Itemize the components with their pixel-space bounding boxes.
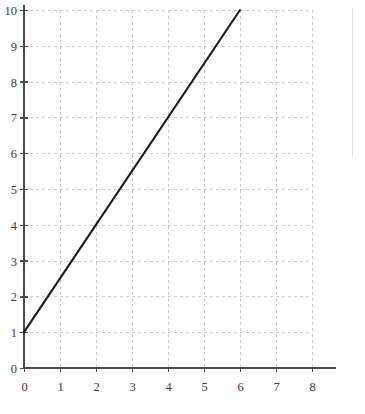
x-tick-label-4: 4 xyxy=(165,380,172,394)
x-tick-label-6: 6 xyxy=(237,380,243,394)
x-tick-label-8: 8 xyxy=(309,380,315,394)
y-tick-label-5: 5 xyxy=(11,183,17,197)
y-tick-label-0: 0 xyxy=(11,362,17,376)
y-tick-label-2: 2 xyxy=(11,290,17,304)
y-tick-label-7: 7 xyxy=(11,111,17,125)
line-chart: 012345678 012345678910 xyxy=(0,0,365,414)
chart-background xyxy=(0,0,365,414)
x-tick-label-2: 2 xyxy=(93,380,99,394)
x-tick-label-3: 3 xyxy=(129,380,135,394)
y-tick-label-9: 9 xyxy=(11,40,17,54)
y-tick-label-10: 10 xyxy=(5,4,18,18)
y-tick-label-4: 4 xyxy=(11,219,18,233)
x-tick-label-0: 0 xyxy=(21,380,27,394)
x-tick-label-7: 7 xyxy=(273,380,279,394)
y-tick-label-3: 3 xyxy=(11,255,17,269)
chart-container: 012345678 012345678910 xyxy=(0,0,365,414)
x-tick-label-1: 1 xyxy=(57,380,63,394)
y-tick-label-1: 1 xyxy=(11,326,17,340)
y-tick-label-8: 8 xyxy=(11,76,17,90)
y-tick-label-6: 6 xyxy=(11,147,17,161)
x-tick-label-5: 5 xyxy=(201,380,207,394)
